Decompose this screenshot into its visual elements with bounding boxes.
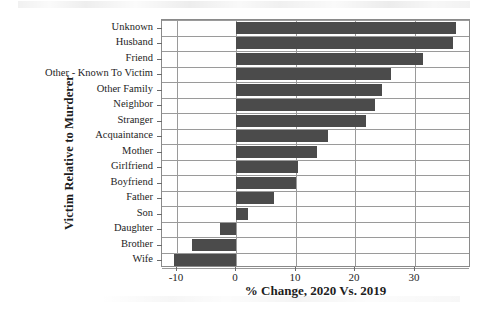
bar-row (162, 223, 469, 235)
bar-row (162, 22, 469, 34)
bar (236, 22, 456, 34)
y-axis-tick-label: Neighbor (20, 97, 158, 113)
bar (236, 37, 453, 49)
bar-row (162, 254, 469, 266)
bar (236, 146, 317, 158)
bar (174, 254, 236, 266)
y-axis-tick-label: Stranger (20, 112, 158, 128)
scan-artifact-top (18, 1, 470, 8)
bar (236, 115, 366, 127)
bar (236, 84, 382, 96)
bar-series (162, 20, 469, 266)
bar-row (162, 208, 469, 220)
y-axis-tick-label: Brother (20, 236, 158, 252)
bar (236, 208, 248, 220)
y-axis-tick-label: Other - Known To Victim (20, 66, 158, 82)
y-axis-tick-label: Boyfriend (20, 174, 158, 190)
bar-row (162, 84, 469, 96)
bar-row (162, 115, 469, 127)
x-axis-tick-label: 0 (232, 271, 238, 283)
bar (236, 53, 423, 65)
y-axis-tick-label: Husband (20, 35, 158, 51)
y-axis-tick-label: Son (20, 205, 158, 221)
plot-area (161, 19, 470, 267)
bar (236, 68, 391, 80)
bar (236, 99, 374, 111)
bar-row (162, 192, 469, 204)
bar-row (162, 68, 469, 80)
bar-row (162, 99, 469, 111)
bar-row (162, 146, 469, 158)
y-axis-tick-label: Other Family (20, 81, 158, 97)
y-axis-tick-label: Father (20, 190, 158, 206)
bar-row (162, 37, 469, 49)
bar (192, 239, 237, 251)
bar-row (162, 161, 469, 173)
y-axis-tick-label: Mother (20, 143, 158, 159)
bar-row (162, 53, 469, 65)
y-axis-tick-label: Daughter (20, 221, 158, 237)
y-axis-tick-labels: UnknownHusbandFriendOther - Known To Vic… (20, 19, 158, 267)
bar (236, 177, 295, 189)
y-axis-tick-label: Friend (20, 50, 158, 66)
y-axis-tick-label: Wife (20, 252, 158, 268)
bar (236, 161, 298, 173)
bar (220, 223, 237, 235)
bar (236, 192, 273, 204)
x-axis-tick-label: 20 (349, 271, 360, 283)
y-axis-tick-label: Unknown (20, 19, 158, 35)
bar (236, 130, 328, 142)
bar-row (162, 130, 469, 142)
bar-row (162, 177, 469, 189)
y-axis-tick-label: Acquaintance (20, 128, 158, 144)
x-axis-title: % Change, 2020 Vs. 2019 (161, 283, 470, 299)
plot-inner (162, 20, 469, 266)
x-axis-tick-label: 10 (290, 271, 301, 283)
x-axis-tick-label: 30 (409, 271, 420, 283)
bar-row (162, 239, 469, 251)
chart-figure: Victim Relative to Murderer UnknownHusba… (0, 0, 485, 310)
x-axis-tick-label: -10 (169, 271, 184, 283)
y-axis-tick-label: Girlfriend (20, 159, 158, 175)
